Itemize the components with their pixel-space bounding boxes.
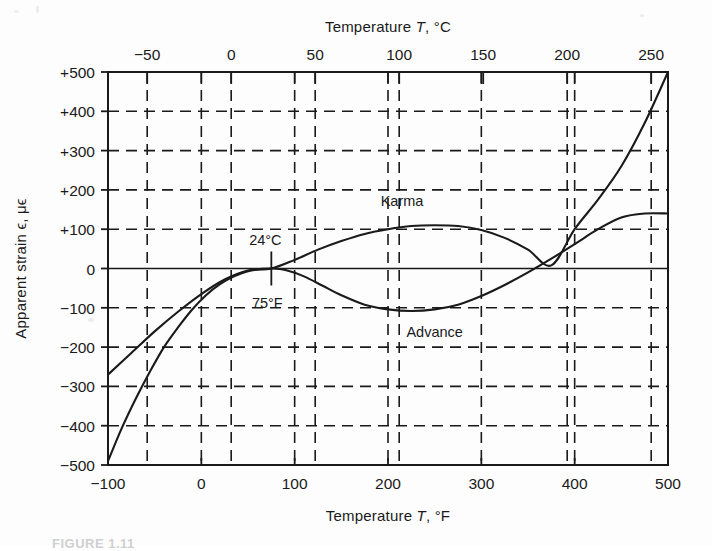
- y-tick-label: −200: [60, 339, 95, 356]
- top-axis-title: Temperature T, °C: [325, 18, 451, 35]
- x-tick-label-fahrenheit: 400: [562, 475, 588, 492]
- bottom-axis-title: Temperature T, °F: [326, 507, 450, 524]
- x-tick-label-fahrenheit: −100: [91, 475, 126, 492]
- x-tick-label-celsius: 50: [307, 46, 325, 63]
- y-tick-label: −400: [60, 418, 95, 435]
- y-tick-label: +200: [60, 182, 95, 199]
- y-tick-label: −100: [60, 300, 95, 317]
- figure-caption: FIGURE 1.11: [52, 536, 135, 551]
- scan-speck: [88, 318, 94, 322]
- x-tick-label-fahrenheit: 200: [375, 475, 401, 492]
- series-label-advance: Advance: [406, 324, 462, 340]
- x-tick-label-celsius: −50: [134, 46, 161, 63]
- scan-speck: [36, 6, 39, 13]
- y-tick-label: +500: [60, 64, 95, 81]
- x-tick-label-celsius: 250: [638, 46, 664, 63]
- series-label-karma: Karma: [381, 193, 425, 209]
- x-tick-label-celsius: 100: [386, 46, 412, 63]
- scan-speck: [640, 14, 644, 17]
- y-tick-label: 0: [86, 261, 95, 278]
- x-tick-label-fahrenheit: 300: [468, 475, 494, 492]
- x-tick-label-celsius: 200: [554, 46, 580, 63]
- scan-speck: [14, 10, 19, 13]
- x-tick-label-fahrenheit: 500: [655, 475, 681, 492]
- y-tick-label: +400: [60, 103, 95, 120]
- x-tick-label-fahrenheit: 0: [197, 475, 206, 492]
- annotation-75f: 75°F: [252, 295, 283, 311]
- y-tick-label: −500: [60, 457, 95, 474]
- x-tick-label-fahrenheit: 100: [282, 475, 308, 492]
- x-tick-label-celsius: 150: [470, 46, 496, 63]
- x-tick-label-celsius: 0: [227, 46, 236, 63]
- y-tick-label: +300: [60, 143, 95, 160]
- left-axis-title: Apparent strain ϵ, μϵ: [12, 198, 29, 338]
- annotation-24c: 24°C: [249, 232, 281, 248]
- y-tick-label: −300: [60, 378, 95, 395]
- y-tick-label: +100: [60, 221, 95, 238]
